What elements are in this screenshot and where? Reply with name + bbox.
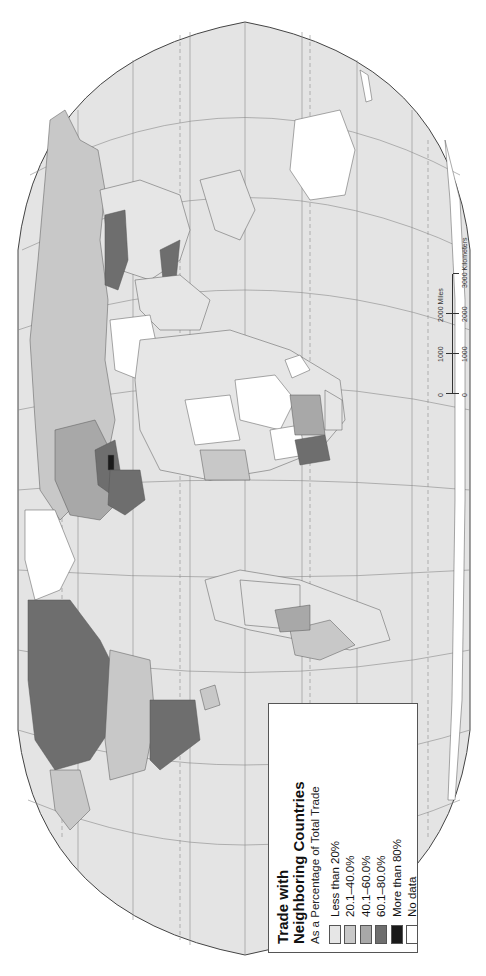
legend-title-line2: Neighboring Countries bbox=[291, 712, 307, 944]
legend-swatch bbox=[375, 925, 387, 944]
region-southern-africa-mid bbox=[290, 395, 325, 435]
region-africa-nodata-1 bbox=[185, 395, 240, 445]
legend-swatch bbox=[329, 925, 341, 944]
scale-km-tick-2: 2000 bbox=[461, 306, 468, 322]
scale-miles-label: 2000 Miles bbox=[437, 288, 444, 322]
region-east-africa bbox=[200, 450, 250, 480]
scale-bar: 0 1000 2000 Miles 0 1000 2000 3000 Kilom… bbox=[437, 250, 473, 400]
scale-line bbox=[452, 274, 453, 394]
scale-miles-tick-1: 1000 bbox=[437, 346, 444, 362]
map-legend: Trade with Neighboring Countries As a Pe… bbox=[268, 703, 418, 953]
legend-item: More than 80% bbox=[389, 712, 405, 944]
scale-tick bbox=[446, 393, 452, 394]
legend-title: Trade with Neighboring Countries bbox=[275, 712, 307, 944]
scale-km-label: 3000 Kilometers bbox=[461, 237, 468, 288]
scale-miles-tick-0: 0 bbox=[437, 393, 444, 397]
legend-swatch bbox=[406, 925, 418, 944]
legend-label: 20.1–40.0% bbox=[344, 856, 356, 917]
legend-item: No data bbox=[405, 712, 421, 944]
legend-item: Less than 20% bbox=[327, 712, 343, 944]
legend-label: Less than 20% bbox=[329, 841, 341, 917]
region-southern-africa-dark bbox=[295, 435, 330, 465]
scale-tick bbox=[446, 313, 452, 314]
scale-tick bbox=[446, 353, 452, 354]
legend-item: 40.1–60.0% bbox=[358, 712, 374, 944]
legend-subtitle: As a Percentage of Total Trade bbox=[309, 712, 321, 944]
legend-item: 60.1–80.0% bbox=[374, 712, 390, 944]
legend-item: 20.1–40.0% bbox=[343, 712, 359, 944]
scale-km-tick-1: 1000 bbox=[461, 346, 468, 362]
region-paraguay-bolivia bbox=[275, 605, 310, 632]
legend-swatch bbox=[360, 925, 372, 944]
legend-swatch bbox=[344, 925, 356, 944]
legend-label: No data bbox=[406, 877, 418, 917]
scale-tick bbox=[453, 353, 459, 354]
legend-swatch bbox=[391, 925, 403, 944]
scale-tick bbox=[453, 313, 459, 314]
scale-tick bbox=[453, 273, 459, 274]
legend-label: More than 80% bbox=[391, 839, 403, 917]
region-benelux bbox=[108, 455, 114, 470]
legend-label: 40.1–60.0% bbox=[360, 856, 372, 917]
scale-km-tick-0: 0 bbox=[461, 393, 468, 397]
legend-title-line1: Trade with bbox=[275, 712, 291, 944]
scale-tick bbox=[453, 393, 459, 394]
legend-label: 60.1–80.0% bbox=[375, 856, 387, 917]
